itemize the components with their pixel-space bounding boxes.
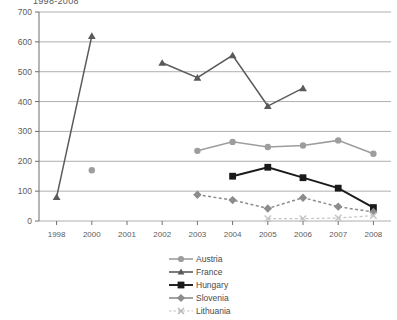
legend-item-france: France: [168, 265, 288, 278]
legend-item-slovenia: Slovenia: [168, 291, 288, 304]
data-point: [265, 144, 271, 150]
data-point: [335, 185, 342, 192]
x-axis-tick-label: 2001: [118, 230, 136, 239]
data-point: [228, 196, 236, 204]
legend-marker-diamond-icon: [168, 292, 194, 304]
y-axis-tick-label: 400: [18, 97, 32, 107]
y-axis-tick-label: 100: [18, 186, 32, 196]
series-france: [53, 32, 307, 200]
x-axis-tick-label: 1998: [48, 230, 66, 239]
x-axis-tick-label: 2004: [224, 230, 242, 239]
legend-item-lithuania: Lithuania: [168, 304, 288, 317]
y-axis-tick-label: 500: [18, 67, 32, 77]
data-point: [229, 173, 236, 180]
x-axis-tick-label: 2003: [189, 230, 207, 239]
data-point: [53, 194, 61, 201]
x-axis-tick-label: 2000: [83, 230, 101, 239]
data-point: [158, 59, 166, 66]
legend-label-lithuania: Lithuania: [194, 305, 231, 317]
data-point: [300, 174, 307, 181]
data-point: [229, 52, 237, 59]
x-axis-tick-label: 2002: [153, 230, 171, 239]
y-axis-tick-label: 300: [18, 126, 32, 136]
series-austria: [89, 137, 377, 173]
x-axis-tick-label: 2006: [294, 230, 312, 239]
data-point: [264, 164, 271, 171]
legend-marker-triangle-icon: [168, 266, 194, 278]
y-axis-tick-label: 700: [18, 7, 32, 17]
data-point: [89, 167, 95, 173]
data-point: [194, 148, 200, 154]
legend-marker-x-icon: [168, 305, 194, 317]
chart-legend: Austria France Hungary Slovenia Lithuani…: [168, 252, 288, 317]
data-point: [335, 137, 341, 143]
x-axis-tick-label: 2007: [329, 230, 347, 239]
legend-label-hungary: Hungary: [194, 279, 228, 291]
legend-label-austria: Austria: [194, 253, 222, 265]
data-point: [229, 139, 235, 145]
data-point: [299, 85, 307, 92]
data-point: [299, 194, 307, 202]
x-axis-tick-label: 2005: [259, 230, 277, 239]
line-chart: 1998-2008 010020030040050060070019982000…: [0, 0, 397, 320]
x-axis-tick-label: 2008: [365, 230, 383, 239]
data-point: [300, 142, 306, 148]
plot-area: 0100200300400500600700199820002001200220…: [0, 0, 397, 250]
y-axis-tick-label: 0: [27, 216, 32, 226]
data-point: [370, 151, 376, 157]
legend-label-france: France: [194, 266, 222, 278]
data-point: [264, 102, 272, 109]
legend-item-austria: Austria: [168, 252, 288, 265]
y-axis-tick-label: 600: [18, 37, 32, 47]
legend-label-slovenia: Slovenia: [194, 292, 229, 304]
data-point: [88, 32, 96, 39]
series-lithuania: [265, 212, 377, 221]
y-axis-tick-label: 200: [18, 156, 32, 166]
data-point: [264, 204, 272, 212]
data-point: [193, 191, 201, 199]
legend-item-hungary: Hungary: [168, 278, 288, 291]
legend-marker-square-icon: [168, 279, 194, 291]
legend-marker-circle-icon: [168, 253, 194, 265]
data-point: [334, 202, 342, 210]
